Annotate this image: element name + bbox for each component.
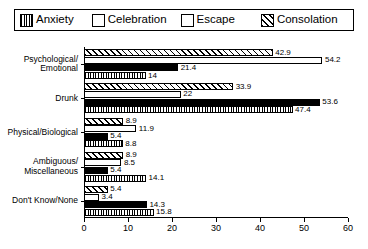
legend-item-consolation: Consolation [261, 10, 338, 30]
bar-value-label: 21.4 [180, 64, 197, 72]
bar-value-label: 53.6 [322, 98, 339, 106]
diagonal-hatch-swatch-icon [261, 14, 274, 27]
bar-rect [84, 201, 147, 208]
bar-anxiety: 14.1 [84, 175, 348, 182]
bar-value-label: 8.8 [125, 140, 137, 148]
bar-rect [84, 175, 146, 182]
bar-value-label: 11.9 [138, 125, 154, 133]
bar-anxiety: 8.8 [84, 140, 348, 147]
x-axis-tick-label: 50 [299, 224, 309, 233]
bar-rect [84, 152, 123, 159]
category-label: Drunk [55, 94, 78, 104]
bar-group: Ambiguous/ Miscellaneous8.98.55.414.1 [84, 150, 348, 184]
bar-rect [84, 83, 233, 90]
bar-value-label: 15.8 [156, 208, 173, 216]
x-axis-tick [260, 218, 261, 222]
bar-value-label: 8.5 [123, 159, 135, 167]
bar-escape: 54.2 [84, 57, 348, 64]
x-axis-tick-label: 10 [123, 224, 133, 233]
bar-rect [84, 99, 320, 106]
bar-value-label: 5.4 [110, 166, 122, 174]
bar-rect [84, 64, 178, 71]
bar-group: Drunk33.92253.647.4 [84, 81, 348, 115]
bar-rect [84, 140, 123, 147]
legend-item-anxiety: Anxiety [20, 10, 74, 30]
x-axis-tick [128, 218, 129, 222]
x-axis-tick-label: 0 [81, 224, 86, 233]
x-axis-tick-label: 30 [211, 224, 221, 233]
bar-group: Psychological/ Emotional42.954.221.414 [84, 47, 348, 81]
bar-value-label: 22 [183, 90, 193, 98]
legend-label-consolation: Consolation [277, 14, 338, 26]
x-axis-tick-label: 60 [343, 224, 353, 233]
bar-rect [84, 209, 154, 216]
bar-celebration: 21.4 [84, 64, 348, 71]
solid-black-swatch-icon [92, 14, 105, 27]
bar-value-label: 3.4 [101, 193, 113, 201]
x-axis-tick [84, 218, 85, 222]
legend-label-celebration: Celebration [108, 14, 167, 26]
bar-anxiety: 15.8 [84, 209, 348, 216]
bar-rect [84, 167, 108, 174]
x-axis-tick-label: 40 [255, 224, 265, 233]
legend-label-anxiety: Anxiety [36, 14, 74, 26]
category-label: Psychological/ Emotional [24, 55, 78, 74]
bar-value-label: 8.9 [125, 117, 137, 125]
bar-celebration: 5.4 [84, 167, 348, 174]
bar-consolation: 5.4 [84, 186, 348, 193]
bar-value-label: 5.4 [110, 132, 122, 140]
bar-group: Physical/Biological8.911.95.48.8 [84, 115, 348, 149]
bar-value-label: 14.1 [148, 174, 165, 182]
bar-value-label: 33.9 [235, 83, 252, 91]
bar-rect [84, 49, 273, 56]
bar-escape: 11.9 [84, 125, 348, 132]
bar-rect [84, 106, 293, 113]
legend-item-celebration: Celebration [92, 10, 167, 30]
x-axis-tick [348, 218, 349, 222]
vertical-stripe-swatch-icon [20, 14, 33, 27]
bar-group: Don't Know/None5.43.414.315.8 [84, 184, 348, 218]
bar-escape: 22 [84, 91, 348, 98]
bar-value-label: 14 [148, 72, 158, 80]
bar-rect [84, 194, 99, 201]
category-label: Physical/Biological [8, 128, 78, 138]
bar-consolation: 33.9 [84, 83, 348, 90]
x-axis-tick [172, 218, 173, 222]
bar-consolation: 42.9 [84, 49, 348, 56]
bar-value-label: 42.9 [275, 49, 292, 57]
white-swatch-icon [181, 14, 194, 27]
bar-value-label: 47.4 [295, 106, 312, 114]
bar-rect [84, 57, 322, 64]
bar-rect [84, 118, 123, 125]
bar-escape: 8.5 [84, 159, 348, 166]
chart-legend: Anxiety Celebration Escape Consolation [14, 9, 354, 31]
x-axis-tick [216, 218, 217, 222]
bar-rect [84, 72, 146, 79]
bar-rect [84, 91, 181, 98]
bar-value-label: 54.2 [324, 56, 341, 64]
bar-anxiety: 14 [84, 72, 348, 79]
bar-anxiety: 47.4 [84, 106, 348, 113]
bar-celebration: 5.4 [84, 133, 348, 140]
category-label: Ambiguous/ Miscellaneous [24, 157, 78, 176]
bar-rect [84, 133, 108, 140]
legend-label-escape: Escape [197, 14, 235, 26]
legend-item-escape: Escape [181, 10, 235, 30]
bar-celebration: 14.3 [84, 201, 348, 208]
category-label: Don't Know/None [12, 196, 78, 206]
bar-chart-plot-area: Psychological/ Emotional42.954.221.414Dr… [84, 47, 348, 218]
x-axis-tick [304, 218, 305, 222]
bar-consolation: 8.9 [84, 118, 348, 125]
bar-escape: 3.4 [84, 194, 348, 201]
x-axis-tick-label: 20 [167, 224, 177, 233]
